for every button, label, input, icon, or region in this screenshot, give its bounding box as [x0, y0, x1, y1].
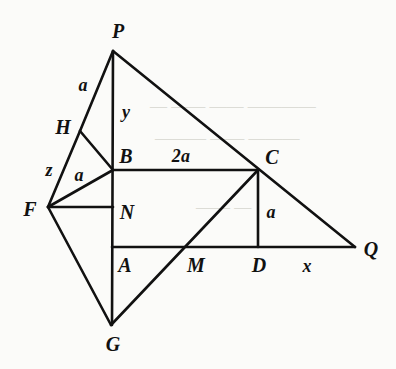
length-label-a-CD: a [267, 203, 276, 221]
point-label-N: N [120, 202, 134, 222]
segment-P-G-vertical [112, 51, 113, 325]
segment-P-Q [113, 51, 355, 247]
point-label-H: H [55, 117, 71, 137]
point-label-C: C [265, 147, 278, 167]
point-label-B: B [119, 146, 132, 166]
point-label-A: A [118, 255, 131, 275]
length-label-z-HF: z [45, 161, 52, 179]
point-label-Q: Q [364, 239, 378, 259]
length-label-a-FB: a [75, 166, 84, 184]
segment-F-G [48, 207, 111, 325]
length-label-2a-BC: 2a [172, 147, 191, 165]
length-label-x-DQ: x [303, 257, 312, 275]
point-label-D: D [252, 255, 266, 275]
geometry-drawing [0, 0, 396, 369]
segment-H-B [80, 131, 113, 170]
length-label-y-PB: y [122, 103, 130, 121]
point-label-F: F [23, 199, 36, 219]
geometry-figure: — —— —— ———— ——— —— ——— —— — [0, 0, 396, 369]
point-label-G: G [106, 334, 120, 354]
point-label-M: M [187, 255, 205, 275]
length-label-a-PH: a [79, 76, 88, 94]
point-label-P: P [112, 21, 124, 41]
